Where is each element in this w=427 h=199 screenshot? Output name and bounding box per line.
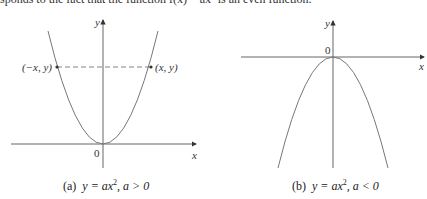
fig-b-y-label: y xyxy=(325,18,330,29)
caption-condition: , a < 0 xyxy=(347,179,379,193)
fig-b-caption: (b) y = ax2, a < 0 xyxy=(292,179,379,192)
point-right-marker xyxy=(149,65,152,68)
fig-a-x-label: x xyxy=(192,150,197,161)
point-left-marker xyxy=(55,65,58,68)
caption-equation: y = ax xyxy=(82,179,113,193)
figures-canvas xyxy=(0,0,427,199)
figure-b-plot xyxy=(241,21,424,168)
figure-a-plot xyxy=(11,20,196,168)
caption-condition: , a > 0 xyxy=(117,179,149,193)
caption-prefix: (a) xyxy=(63,179,76,193)
fig-b-origin-label: 0 xyxy=(325,45,331,56)
caption-prefix: (b) xyxy=(292,179,306,193)
caption-equation: y = ax xyxy=(312,179,343,193)
fig-a-caption: (a) y = ax2, a > 0 xyxy=(63,179,149,192)
fig-b-x-label: x xyxy=(419,61,424,72)
fig-a-y-label: y xyxy=(95,17,100,28)
fig-a-origin-label: 0 xyxy=(94,148,100,159)
fig-a-point-right-label: (x, y) xyxy=(155,62,178,73)
fig-a-point-left-label: (−x, y) xyxy=(22,62,52,73)
